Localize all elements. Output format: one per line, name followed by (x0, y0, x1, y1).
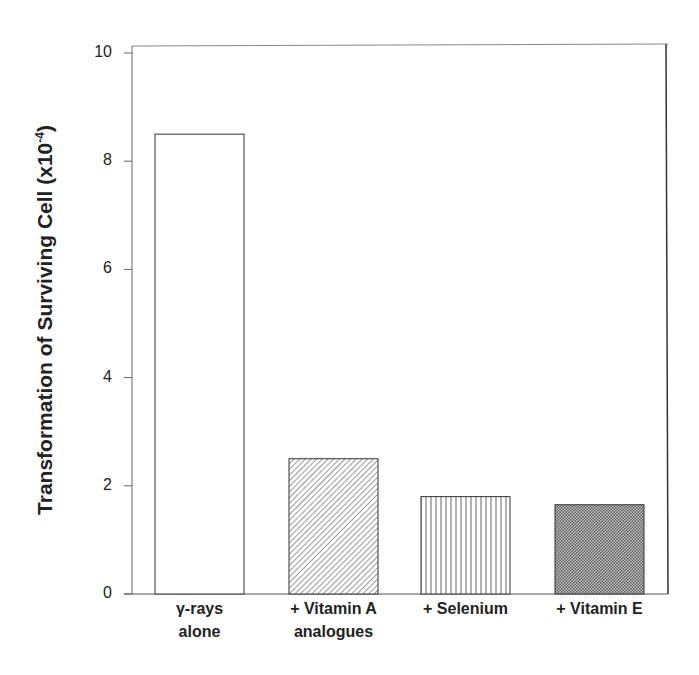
bars (155, 134, 644, 594)
x-category-label: + Vitamin E (530, 597, 670, 620)
y-tick-label: 8 (82, 151, 112, 169)
bar-3 (555, 505, 644, 594)
bar-chart (0, 0, 699, 675)
x-category-label: + Vitamin Aanalogues (264, 597, 404, 643)
y-tick-label: 6 (82, 259, 112, 277)
y-axis-label: Transformation of Surviving Cell (x10-4) (33, 125, 57, 515)
x-category-label: + Selenium (396, 597, 536, 620)
y-tick-label: 10 (82, 43, 112, 61)
y-axis-ticks (124, 53, 132, 594)
bar-2 (421, 497, 510, 594)
bar-1 (289, 459, 378, 594)
x-category-label: γ-raysalone (130, 597, 270, 643)
y-tick-label: 0 (82, 584, 112, 602)
y-tick-label: 2 (82, 476, 112, 494)
y-tick-label: 4 (82, 368, 112, 386)
bar-0 (155, 134, 244, 594)
